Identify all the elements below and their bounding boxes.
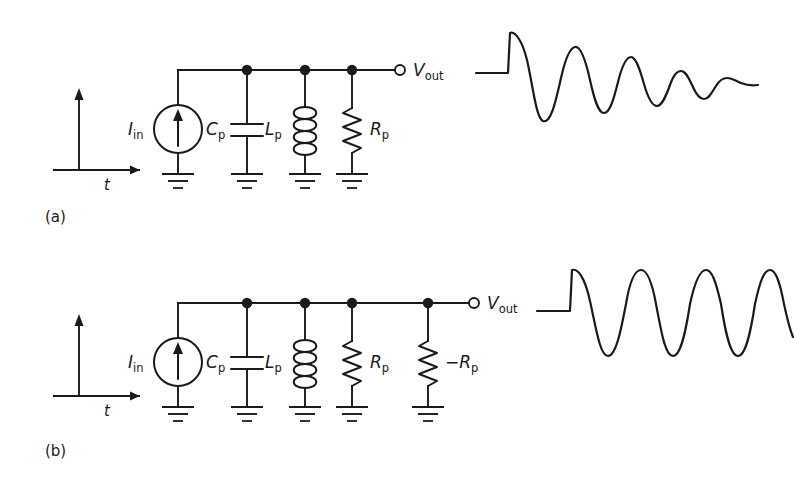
panel-a-svg: t Vout (0, 0, 794, 246)
panel-b-tag: (b) (45, 442, 66, 460)
cp-subscript-b: p (218, 361, 225, 375)
panel-a: t Vout (0, 0, 794, 246)
ground-symbol-ind-b (289, 407, 321, 421)
current-source-arrowhead-b (173, 342, 183, 354)
panel-b-svg: t Vout (0, 246, 794, 492)
lp-label-a: Lp (265, 119, 282, 142)
negrp-label-b: −Rp (445, 352, 478, 375)
input-axis-b: t (53, 314, 140, 420)
t-axis-label-b: t (104, 402, 111, 420)
ground-symbol-cap-b (231, 407, 263, 421)
lp-subscript-a: p (274, 128, 281, 142)
lp-subscript-b: p (274, 361, 281, 375)
vout-subscript-b: out (499, 302, 518, 316)
t-axis-label-a: t (104, 176, 111, 194)
sustained-oscillation-path (537, 270, 793, 356)
t-axis-arrowhead-a (130, 166, 140, 175)
top-rail-b: Vout (178, 293, 518, 337)
vout-label-a: Vout (413, 60, 444, 83)
rp-subscript-a: p (382, 128, 389, 142)
input-axis-a: t (53, 88, 140, 194)
capacitor-branch-b: Cp (206, 303, 263, 421)
ind-coil-a (294, 107, 317, 155)
resistor-branch-a: Rp (336, 70, 389, 188)
capacitor-branch-a: Cp (206, 70, 263, 188)
rp-label-a: Rp (370, 119, 389, 142)
ground-symbol-res-a (336, 174, 368, 188)
res-zigzag-a (343, 108, 361, 153)
vout-terminal-a (395, 65, 405, 75)
ground-symbol-ind-a (289, 174, 321, 188)
impulse-arrowhead-b (75, 314, 84, 326)
circuit-figure: t Vout (0, 0, 794, 492)
inductor-branch-b: Lp (265, 303, 321, 421)
rp-label-b: Rp (370, 352, 389, 375)
iin-subscript-a: in (133, 128, 143, 142)
current-source-branch-b: Iin (128, 338, 202, 421)
vout-subscript-a: out (425, 69, 444, 83)
ind-coil-b (294, 340, 317, 388)
t-axis-arrowhead-b (130, 392, 140, 401)
ground-symbol-res-b (336, 407, 368, 421)
cp-label-a: Cp (206, 119, 225, 142)
ground-symbol-source-a (162, 174, 194, 188)
resistor-branch-b: Rp (336, 303, 389, 421)
top-rail-a: Vout (178, 60, 444, 104)
rp-subscript-b: p (382, 361, 389, 375)
cp-label-b: Cp (206, 352, 225, 375)
waveform-b (537, 270, 793, 356)
inductor-branch-a: Lp (265, 70, 321, 188)
negrp-subscript-b: p (471, 361, 478, 375)
lp-label-b: Lp (265, 352, 282, 375)
negres-zigzag-b (419, 341, 437, 386)
panel-b: t Vout (0, 246, 794, 492)
iin-label-b: Iin (128, 352, 144, 375)
impulse-arrowhead-a (75, 88, 84, 100)
ground-symbol-source-b (162, 407, 194, 421)
vout-terminal-b (469, 298, 479, 308)
iin-label-a: Iin (128, 119, 144, 142)
ground-symbol-cap-a (231, 174, 263, 188)
damped-oscillation-path (476, 33, 758, 122)
cp-subscript-a: p (218, 128, 225, 142)
panel-a-tag: (a) (45, 208, 66, 226)
waveform-a (476, 33, 758, 122)
current-source-branch-a: Iin (128, 105, 202, 188)
negative-resistor-branch-b: −Rp (412, 303, 478, 421)
res-zigzag-b (343, 341, 361, 386)
ground-symbol-negres-b (412, 407, 444, 421)
iin-subscript-b: in (133, 361, 143, 375)
current-source-arrowhead-a (173, 109, 183, 121)
vout-label-b: Vout (487, 293, 518, 316)
